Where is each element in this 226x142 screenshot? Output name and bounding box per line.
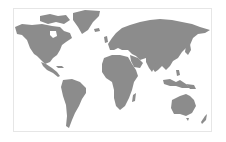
region-tasmania [186,118,189,121]
region-philippines [176,70,180,76]
region-south-america [61,79,86,128]
region-indonesia [163,79,190,88]
region-north-america [15,24,72,64]
region-central-america [41,62,60,77]
region-madagascar [132,93,136,102]
region-australia [171,94,196,116]
region-new-zealand [201,114,207,124]
world-map [0,0,226,142]
region-caribbean [56,66,64,68]
region-arctic-islands [40,14,70,24]
region-iceland [94,28,100,32]
region-uk [104,36,108,43]
